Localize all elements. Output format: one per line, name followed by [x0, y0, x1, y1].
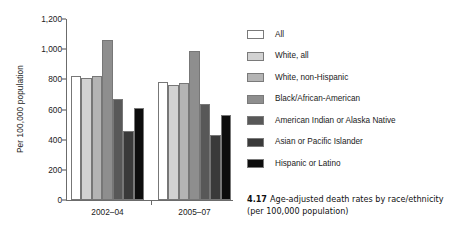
legend-swatch-icon [247, 159, 264, 168]
figure-number: 4.17 [247, 194, 267, 204]
y-axis-tick-label: 1,200 [16, 14, 62, 24]
x-axis-line [66, 200, 233, 201]
bar [71, 76, 81, 200]
x-axis-tick-mark [151, 200, 152, 205]
x-axis-tick-label: 2005–07 [178, 207, 210, 217]
bar [102, 40, 112, 200]
bars-container [67, 0, 233, 200]
legend-swatch-icon [247, 95, 264, 104]
caption-line-1: Age-adjusted death rates by race/ethnici… [270, 194, 444, 204]
bar [92, 76, 102, 200]
legend-swatch-icon [247, 116, 264, 125]
bar [81, 78, 91, 200]
bar [221, 115, 231, 200]
y-axis-tick-label: 600 [16, 105, 62, 115]
x-axis-tick-label: 2002–04 [91, 207, 123, 217]
legend-item: American Indian or Alaska Native [247, 110, 452, 132]
legend-label: White, all [275, 52, 309, 60]
legend-swatch-icon [247, 73, 264, 82]
y-axis-tick-label: 1,000 [16, 44, 62, 54]
bar [189, 51, 199, 200]
y-axis-tick-label: 400 [16, 135, 62, 145]
legend-item: Asian or Pacific Islander [247, 132, 452, 154]
legend-swatch-icon [247, 52, 264, 61]
legend-item: Hispanic or Latino [247, 153, 452, 175]
legend-label: Black/African-American [275, 95, 360, 103]
bar [158, 82, 168, 200]
legend-item: Black/African-American [247, 89, 452, 111]
bar [210, 135, 220, 200]
bar [168, 85, 178, 200]
chart-legend: AllWhite, allWhite, non-HispanicBlack/Af… [247, 24, 452, 175]
legend-label: Asian or Pacific Islander [275, 138, 363, 146]
y-axis-tick-label: 0 [16, 195, 62, 205]
bar [179, 83, 189, 200]
figure-4-17: Per 100,000 population 02004006008001,00… [0, 0, 452, 241]
bar [123, 131, 133, 200]
y-axis-tick-label: 800 [16, 74, 62, 84]
legend-item: All [247, 24, 452, 46]
chart-plot-area: Per 100,000 population 02004006008001,00… [0, 0, 240, 225]
bar [200, 104, 210, 200]
legend-label: All [275, 31, 284, 39]
bar [113, 99, 123, 200]
legend-item: White, all [247, 46, 452, 68]
caption-line-2: (per 100,000 population) [247, 206, 348, 216]
y-axis-tick-labels: 02004006008001,0001,200 [16, 0, 62, 200]
bar-group-2002-04 [71, 0, 144, 200]
legend-label: Hispanic or Latino [275, 160, 341, 168]
legend-label: White, non-Hispanic [275, 74, 348, 82]
bar-group-2005-07 [158, 0, 231, 200]
legend-label: American Indian or Alaska Native [275, 117, 396, 125]
bar [134, 108, 144, 200]
legend-item: White, non-Hispanic [247, 67, 452, 89]
y-axis-tick-label: 200 [16, 165, 62, 175]
legend-swatch-icon [247, 30, 264, 39]
figure-caption: 4.17Age-adjusted death rates by race/eth… [247, 194, 447, 217]
legend-swatch-icon [247, 138, 264, 147]
